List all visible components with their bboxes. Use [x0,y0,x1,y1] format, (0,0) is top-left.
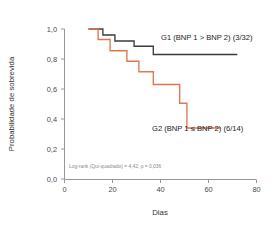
y-tick-label-4: 0,4 [47,115,57,124]
g2-series-label: G2 (BNP 1 ≤ BNP 2) (6/14) [152,124,244,133]
x-tick-label-5: 80 [252,185,260,194]
kaplan-meier-survival-chart: 1,0 0,8 0,6 0,4 0,2 0,0 0 20 40 60 80 G1… [0,0,275,230]
y-axis-ticks [61,29,65,179]
y-tick-label-6: 0,0 [47,175,57,184]
x-tick-label-1: 0 [62,185,66,194]
g1-series-label: G1 (BNP 1 > BNP 2) (3/32) [161,33,253,42]
x-tick-label-3: 40 [156,185,164,194]
logrank-statistic: Log-rank (Qui-quadrado) = 4,42; p = 0,03… [69,164,161,169]
y-tick-label-5: 0,2 [47,145,57,154]
x-tick-label-4: 60 [204,185,212,194]
x-tick-label-2: 20 [108,185,116,194]
survival-curve-g2 [89,29,221,128]
y-axis-title: Probabilidade de sobrevida [7,56,16,151]
chart-plot-area: 1,0 0,8 0,6 0,4 0,2 0,0 0 20 40 60 80 G1… [0,0,275,230]
x-axis-ticks [65,180,257,184]
y-tick-label-3: 0,6 [47,85,57,94]
y-tick-label-2: 0,8 [47,55,57,64]
y-tick-label-1: 1,0 [47,25,57,34]
x-axis-title: Dias [152,208,168,217]
